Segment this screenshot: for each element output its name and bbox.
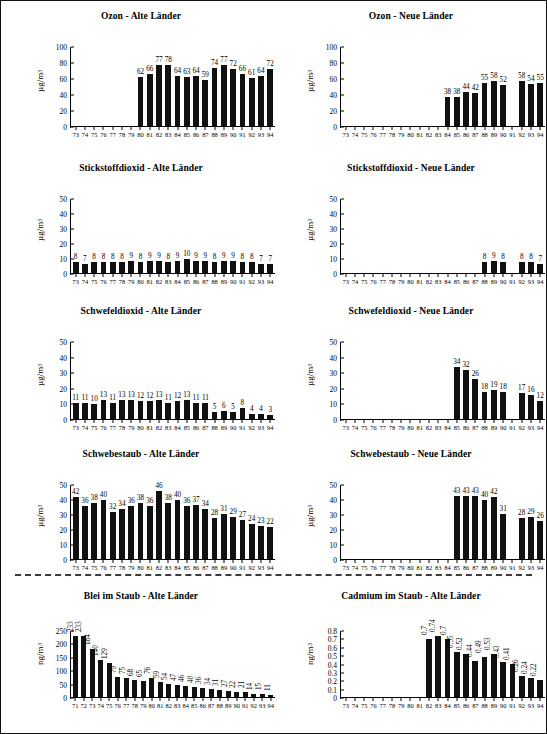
bar: 43: [472, 496, 478, 561]
bars-region-schwefeldioxid-alte-laender: 1111101311131312121311121311115658443: [71, 342, 275, 420]
bar-slot: 9: [219, 199, 228, 274]
bar-value-label: 3: [268, 406, 272, 414]
y-tick-label: 0.6: [328, 643, 340, 652]
x-tick-label: 84: [443, 424, 452, 431]
chart-panel-blei-im-staub-alte-laender: Blei im Staub - Alte Länderng/m305010015…: [7, 589, 275, 731]
y-tick-label: 0: [63, 123, 70, 132]
x-tick-mark: [512, 274, 513, 277]
x-tick-label: 79: [397, 278, 406, 285]
x-tick-mark: [503, 560, 504, 563]
bar-value-label: 9: [176, 252, 180, 260]
bar-slot: 23: [256, 485, 265, 560]
bar: 43: [454, 496, 460, 561]
axes-stickstoffdioxid-neue-laender: 0102030405089888773747576777879808182838…: [316, 185, 545, 275]
x-tick-mark: [530, 127, 531, 130]
plot-area-schwefeldioxid-alte-laender: µg/m301020304050111110131113131212131112…: [7, 328, 275, 421]
bar: 0.26: [519, 676, 525, 698]
x-tick-label: 81: [145, 564, 154, 571]
x-tick-mark: [456, 274, 457, 277]
y-tick-label: 10: [330, 541, 341, 550]
x-tick-mark: [484, 698, 485, 701]
bar-slot: 36: [80, 485, 89, 560]
x-tick-mark: [211, 698, 212, 701]
plot-area-ozon-neue-laender: µg/m302040608010038384442555852585455737…: [277, 33, 545, 128]
x-axis-line-schwefeldioxid-alte-laender: [71, 419, 275, 420]
x-axis-line-stickstoffdioxid-alte-laender: [71, 273, 275, 274]
bar: 10: [184, 259, 190, 274]
x-tick-label: 94: [536, 278, 545, 285]
bar-slot: [378, 485, 387, 560]
y-tick-label: 60: [60, 75, 71, 84]
bar-slot: 36: [127, 485, 136, 560]
x-tick-mark: [530, 698, 531, 701]
bar-value-label: 40: [481, 491, 488, 499]
bar-value-label: 19: [490, 381, 497, 389]
x-tick-mark: [447, 274, 448, 277]
x-tick-label: 88: [210, 564, 219, 571]
y-tick-label: 0.5: [328, 652, 340, 661]
bar-slot: 140: [97, 631, 106, 698]
bar-value-label: 8: [111, 253, 115, 261]
bar-series-cadmium-im-staub-alte-laender: 0.70.740.70.550.520.440.490.530.430.410.…: [341, 631, 545, 698]
bar-slot: 24: [247, 485, 256, 560]
y-tick-label: 100: [56, 43, 70, 52]
bar-slot: [397, 199, 406, 274]
bars-region-ozon-alte-laender: 626677786463645974777266616472: [71, 47, 275, 127]
x-tick-label: 82: [424, 702, 433, 709]
x-axis-line-schwefeldioxid-neue-laender: [341, 419, 545, 420]
y-tick-label: 20: [330, 240, 341, 249]
y-tick-label: 30: [330, 369, 341, 378]
bar-slot: 8: [238, 342, 247, 420]
y-tick-label: 0: [333, 270, 340, 279]
bar-value-label: 8: [250, 253, 254, 261]
chart-panel-stickstoffdioxid-neue-laender: Stickstoffdioxid - Neue Länderµg/m301020…: [277, 161, 545, 301]
x-tick-label: 94: [266, 424, 275, 431]
bar-value-label: 72: [267, 60, 274, 68]
bar: 0.55: [454, 652, 460, 698]
axes-ozon-alte-laender: 0204060801006266777864636459747772666164…: [46, 33, 275, 128]
bar-value-label: 66: [239, 65, 246, 73]
x-tick-label: 76: [99, 424, 108, 431]
x-tick-mark: [112, 420, 113, 423]
x-tick-mark: [512, 420, 513, 423]
x-tick-mark: [345, 698, 346, 701]
y-axis-label-cadmium-im-staub-alte-laender: ng/m3: [303, 609, 316, 699]
x-tick-labels-blei-im-staub-alte-laender: 7172737475767778798081828384858687888990…: [71, 702, 275, 709]
x-tick-mark: [214, 420, 215, 423]
y-tick-label: 20: [330, 107, 341, 116]
bar-value-label: 10: [91, 395, 98, 403]
bar: 42: [472, 93, 478, 127]
y-tick-label: 0: [333, 694, 340, 703]
bar-value-label: 11: [193, 394, 200, 402]
y-ticks-ozon-neue-laender: 020406080100: [316, 33, 340, 128]
bar: 18: [482, 392, 488, 420]
bar-value-label: 26: [537, 512, 544, 520]
bar-slot: [117, 47, 126, 127]
x-tick-mark: [126, 698, 127, 701]
x-tick-mark: [270, 698, 271, 701]
x-tick-label: 85: [452, 278, 461, 285]
x-tick-label: 85: [182, 564, 191, 571]
x-tick-label: 86: [461, 702, 470, 709]
bar-slot: [71, 47, 80, 127]
x-tick-label: 80: [406, 702, 415, 709]
bar-slot: 13: [99, 342, 108, 420]
bar-slot: 7: [536, 199, 545, 274]
bar-slot: 62: [136, 47, 145, 127]
x-tick-labels-schwebestaub-neue-laender: 7374757677787980818283848586878889909192…: [341, 564, 545, 571]
bar-slot: 13: [154, 342, 163, 420]
bar-slot: 0.43: [499, 631, 508, 698]
bar: 184: [90, 649, 95, 698]
bar: 13: [128, 400, 134, 420]
bar-slot: 29: [526, 485, 535, 560]
bar: 65: [141, 681, 146, 698]
bar-slot: [397, 342, 406, 420]
x-tick-label: 86: [461, 564, 470, 571]
bar: 46: [156, 491, 162, 560]
x-tick-mark: [270, 560, 271, 563]
x-tick-mark: [242, 274, 243, 277]
bar-slot: 43: [471, 485, 480, 560]
x-tick-mark: [364, 560, 365, 563]
x-tick-label: 81: [415, 278, 424, 285]
axes-schwefeldioxid-alte-laender: 0102030405011111013111313121213111213111…: [46, 328, 275, 421]
